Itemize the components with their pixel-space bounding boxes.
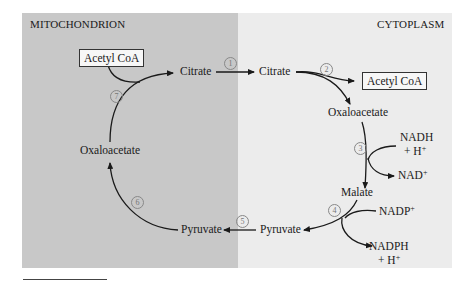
region-label-cytoplasm: CYTOPLASM: [377, 19, 444, 30]
footnote-rule: [23, 279, 107, 280]
node-mito-citrate: Citrate: [180, 66, 211, 78]
step-marker-5: 5: [236, 215, 249, 228]
region-label-mitochondrion: MITOCHONDRION: [30, 19, 125, 30]
cofactor-nadph: NADPH: [369, 241, 409, 253]
node-cyto-oxaloacetate: Oxaloacetate: [328, 107, 388, 119]
cofactor-nadp: NADP+: [379, 206, 415, 218]
step-marker-4: 4: [328, 204, 341, 217]
cofactor-nadh-proton: + H+: [404, 146, 426, 158]
node-mito-oxaloacetate: Oxaloacetate: [80, 145, 140, 157]
step-marker-7: 7: [110, 90, 123, 103]
step-marker-3: 3: [354, 142, 367, 155]
cofactor-nadh: NADH: [400, 132, 433, 144]
step-marker-2: 2: [320, 63, 333, 76]
node-cyto-malate: Malate: [341, 187, 373, 199]
node-cyto-citrate: Citrate: [259, 66, 290, 78]
cofactor-nad: NAD+: [398, 170, 427, 182]
cofactor-nadph-proton: + H+: [378, 255, 400, 267]
node-cyto-pyruvate: Pyruvate: [260, 224, 301, 236]
node-cyto-acetyl-coa: Acetyl CoA: [362, 72, 427, 90]
node-mito-pyruvate: Pyruvate: [181, 224, 222, 236]
step-marker-6: 6: [131, 196, 144, 209]
step-marker-1: 1: [224, 57, 237, 70]
node-mito-acetyl-coa: Acetyl CoA: [79, 49, 144, 67]
